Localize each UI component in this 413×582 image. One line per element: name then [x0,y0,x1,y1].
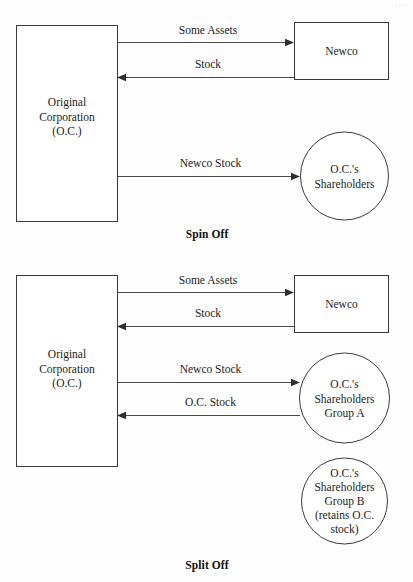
spin-off-original-corporation-box[interactable] [17,26,118,222]
diagram-canvas [0,0,413,582]
spin-off-diagram [17,23,389,222]
spin-off-stock-label: Stock [128,58,288,71]
spin-off-some-assets-label: Some Assets [128,24,288,37]
spin-off-edge-stock [117,74,294,81]
split-off-edge-oc-stock [117,412,300,419]
split-off-caption: Split Off [147,559,267,571]
spin-off-newco-box[interactable] [295,23,389,80]
spin-off-edge-some-assets [118,39,294,46]
split-off-edge-stock [117,323,294,330]
split-off-original-corporation-box[interactable] [17,276,118,467]
split-off-stock-label: Stock [128,307,288,320]
diagram-page: ppx [0,0,413,582]
spin-off-shareholders-circle[interactable] [301,132,389,220]
split-off-some-assets-label: Some Assets [128,274,288,287]
split-off-shareholders-group-b-circle[interactable] [302,458,388,544]
split-off-newco-box[interactable] [295,276,389,333]
split-off-edge-newco-stock [118,379,300,386]
spin-off-newco-stock-label: Newco Stock [128,157,293,170]
split-off-edge-some-assets [118,289,294,296]
split-off-shareholders-group-a-circle[interactable] [300,353,390,443]
split-off-newco-stock-label: Newco Stock [128,363,293,376]
spin-off-caption: Spin Off [147,228,267,240]
spin-off-edge-newco-stock [118,173,300,180]
split-off-oc-stock-label: O.C. Stock [128,396,293,409]
